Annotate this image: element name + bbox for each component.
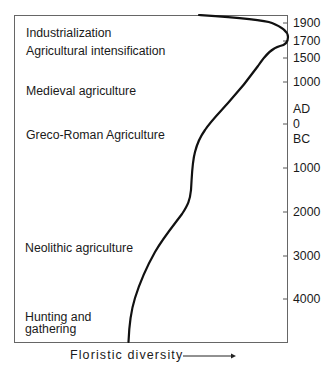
- tick-label-1700: 1700: [293, 34, 320, 48]
- tick-label-3000-bc: 3000: [293, 249, 320, 263]
- y-axis-ticks: [283, 23, 287, 299]
- x-axis-arrow: [183, 354, 236, 359]
- era-industrialization: Industrialization: [26, 26, 111, 40]
- era-medieval-agriculture: Medieval agriculture: [26, 84, 136, 98]
- tick-label-2000-bc: 2000: [293, 205, 320, 219]
- tick-label-1500: 1500: [293, 51, 320, 65]
- era-marker-ad: AD: [293, 102, 310, 116]
- x-axis-label: Floristic diversity: [70, 348, 183, 362]
- tick-label-1000-bc: 1000: [293, 161, 320, 175]
- diversity-curve: [129, 15, 289, 342]
- era-marker-bc: BC: [293, 132, 310, 146]
- tick-label-0: 0: [293, 117, 300, 131]
- era-neolithic-agriculture: Neolithic agriculture: [25, 241, 133, 255]
- tick-label-1000-ad: 1000: [293, 75, 320, 89]
- era-hunting-gathering-line2: gathering: [25, 322, 76, 336]
- era-agricultural-intensification: Agricultural intensification: [26, 44, 165, 58]
- tick-label-4000-bc: 4000: [293, 292, 320, 306]
- tick-label-1900: 1900: [293, 16, 320, 30]
- plot-frame: [15, 16, 288, 343]
- era-greco-roman-agriculture: Greco-Roman Agriculture: [26, 128, 165, 142]
